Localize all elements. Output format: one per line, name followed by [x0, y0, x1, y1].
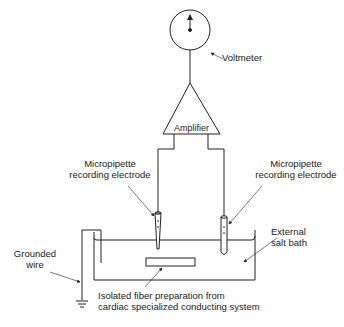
- salt-bath-container: [94, 230, 255, 280]
- right-lead-wire: [208, 134, 224, 216]
- voltmeter-icon: [170, 10, 210, 50]
- water-surface: [94, 236, 255, 240]
- ground-icon: [76, 301, 88, 307]
- left-micropipette-icon: [155, 212, 161, 249]
- fiber-label: Isolated fiber preparation from cardiac …: [98, 290, 260, 312]
- left-electrode-label: Micropipette recording electrode: [55, 158, 165, 180]
- left-electrode-label-line2: recording electrode: [55, 169, 165, 180]
- fiber-pointer: [145, 268, 162, 287]
- ground-label-line1: Grounded: [6, 248, 64, 259]
- right-electrode-label: Micropipette recording electrode: [246, 158, 344, 180]
- left-electrode-pointer: [128, 186, 154, 216]
- right-electrode-pointer: [229, 186, 262, 224]
- bath-label-line2: salt bath: [271, 237, 307, 248]
- amplifier-label: Amplifier: [163, 123, 220, 134]
- ground-label: Grounded wire: [6, 248, 64, 270]
- right-micropipette-icon: [221, 216, 227, 255]
- voltmeter-label: Voltmeter: [222, 52, 262, 63]
- right-electrode-label-line1: Micropipette: [246, 158, 344, 169]
- ground-pointer: [50, 272, 80, 282]
- fiber-label-line1: Isolated fiber preparation from: [98, 290, 260, 301]
- bath-label: External salt bath: [271, 226, 307, 248]
- recording-setup-diagram: Voltmeter Amplifier Micropipette recordi…: [0, 0, 344, 327]
- bath-label-line1: External: [271, 226, 307, 237]
- fiber-label-line2: cardiac specialized conducting system: [98, 301, 260, 312]
- fiber-preparation: [146, 258, 195, 266]
- ground-label-line2: wire: [6, 259, 64, 270]
- right-electrode-label-line2: recording electrode: [246, 169, 344, 180]
- left-electrode-label-line1: Micropipette: [55, 158, 165, 169]
